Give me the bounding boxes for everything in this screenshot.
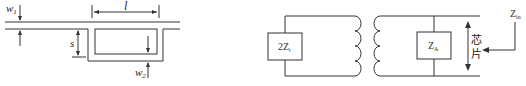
left-loop-top-wire (285, 16, 355, 33)
secondary-coil (374, 16, 380, 76)
primary-coil (355, 16, 361, 76)
chip-label-1: 芯 (471, 33, 482, 47)
chip-label-2: 片 (471, 48, 482, 61)
zin-label: Zin (510, 8, 521, 20)
length-label: l (124, 0, 128, 13)
tmatch-geometry (5, 5, 180, 78)
t-loop-outer (88, 29, 163, 61)
spacing-label: s (70, 37, 74, 49)
left-loop-bottom-wire (285, 60, 355, 76)
w1-label: w1 (6, 2, 17, 16)
diagram-canvas: w1 l s w2 2Zt ZA 芯 片 Zin (0, 0, 526, 86)
w2-label: w2 (135, 66, 146, 80)
zin-pointer (486, 22, 515, 50)
